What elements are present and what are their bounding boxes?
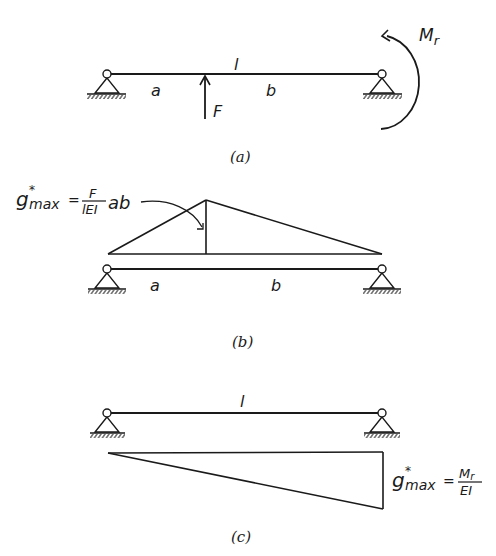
span-label: l xyxy=(240,392,245,411)
caption-c: (c) xyxy=(231,528,251,546)
force-label: F xyxy=(213,102,223,121)
segment-a-label: a xyxy=(151,81,161,100)
span-label: l xyxy=(234,55,239,74)
panel-b: g * max = F lEI ab a b (b) xyxy=(16,183,401,351)
moment-label: Mr xyxy=(419,25,441,48)
svg-text:=: = xyxy=(68,192,80,208)
svg-text:ab: ab xyxy=(108,192,130,213)
svg-text:*: * xyxy=(405,464,411,478)
svg-text:lEI: lEI xyxy=(82,202,98,217)
leader-arrow-icon xyxy=(141,201,202,227)
force-arrow-icon xyxy=(200,76,210,119)
panel-c: l g * max = Mr EI (c) xyxy=(90,392,482,546)
segment-a-label: a xyxy=(150,276,160,295)
svg-text:=: = xyxy=(443,473,455,489)
segment-b-label: b xyxy=(266,81,276,100)
svg-text:g: g xyxy=(16,187,29,211)
svg-text:Mr: Mr xyxy=(459,466,475,482)
svg-text:max: max xyxy=(405,477,436,493)
svg-text:max: max xyxy=(29,196,60,212)
svg-text:F: F xyxy=(89,186,97,201)
moment-arc-icon xyxy=(381,30,419,129)
caption-a: (a) xyxy=(230,148,251,166)
influence-line-triangle xyxy=(108,200,382,254)
gmax-formula-c: g * max = Mr EI xyxy=(392,464,482,498)
influence-line-triangle xyxy=(108,452,383,509)
caption-b: (b) xyxy=(232,333,253,351)
gmax-formula-b: g * max = F lEI ab xyxy=(16,183,130,217)
panel-a: F l a b Mr (a) xyxy=(87,25,441,166)
svg-text:EI: EI xyxy=(460,483,472,498)
svg-text:*: * xyxy=(29,183,35,197)
svg-text:g: g xyxy=(392,468,405,492)
beam-diagram-figure: F l a b Mr (a) g * max = F lEI xyxy=(0,0,496,556)
segment-b-label: b xyxy=(271,276,281,295)
